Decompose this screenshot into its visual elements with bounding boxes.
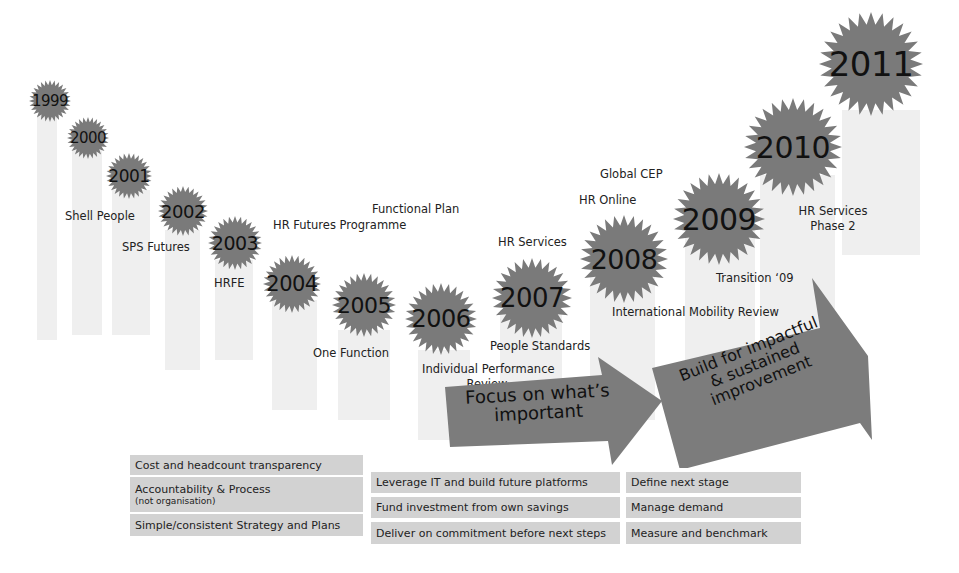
milestone-label: HR Online: [579, 193, 636, 208]
milestone-label: HRFE: [214, 276, 245, 291]
background-bar: [72, 150, 102, 335]
milestone-label: HR Services Phase 2: [788, 204, 878, 234]
year-label: 2006: [400, 283, 482, 355]
principle-box: Fund investment from own savings: [371, 497, 620, 518]
background-bar: [37, 115, 57, 340]
principle-box: Deliver on commitment before next steps: [371, 522, 620, 544]
year-burst-2005: 2005: [326, 273, 402, 337]
milestone-label: Shell People: [65, 209, 135, 224]
principle-box: Simple/consistent Strategy and Plans: [130, 514, 363, 536]
milestone-label: Global CEP: [600, 167, 663, 182]
milestone-label: HR Futures Programme: [273, 218, 406, 233]
principle-box: Define next stage: [626, 472, 801, 493]
principle-box: Manage demand: [626, 497, 801, 518]
year-burst-1999: 1999: [28, 80, 72, 122]
year-label: 2004: [256, 255, 328, 313]
principle-box: Accountability & Process (not organisati…: [130, 477, 363, 512]
year-burst-2004: 2004: [256, 255, 328, 313]
background-bar: [215, 260, 253, 360]
year-label: 2011: [808, 12, 934, 116]
year-label: 2005: [326, 273, 402, 337]
year-burst-2001: 2001: [102, 153, 156, 199]
year-label: 1999: [28, 80, 72, 122]
principle-box: Leverage IT and build future platforms: [371, 472, 620, 493]
background-bar: [338, 330, 390, 420]
build-arrow: Build for impactful & sustained improvem…: [650, 278, 880, 468]
hr-timeline-diagram: 1999 2000 2001 2002 2003 2004 2005 2006 …: [0, 0, 959, 573]
principle-box: Cost and headcount transparency: [130, 455, 363, 475]
milestone-label: People Standards: [490, 339, 590, 354]
year-burst-2006: 2006: [400, 283, 482, 355]
focus-arrow: Focus on what’s important: [440, 357, 662, 465]
milestone-label: HR Services: [498, 235, 567, 250]
year-burst-2007: 2007: [486, 258, 578, 338]
milestone-label: One Function: [313, 346, 389, 361]
principle-box: Measure and benchmark: [626, 522, 801, 544]
year-label: 2001: [102, 153, 156, 199]
year-label: 2007: [486, 258, 578, 338]
milestone-label: SPS Futures: [122, 240, 190, 255]
background-bar: [272, 300, 317, 410]
milestone-label: Functional Plan: [372, 202, 459, 217]
year-burst-2011: 2011: [808, 12, 934, 116]
